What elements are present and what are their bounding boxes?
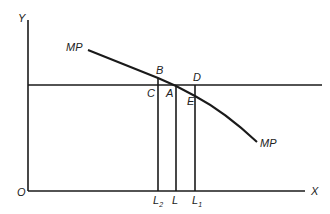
mp-label-right: MP bbox=[260, 137, 277, 149]
point-a-label: A bbox=[165, 87, 173, 99]
tick-l: L bbox=[172, 194, 178, 206]
point-e-label: E bbox=[187, 95, 195, 107]
tick-l1: L1 bbox=[192, 194, 202, 208]
mp-label-left: MP bbox=[66, 41, 83, 53]
marginal-product-diagram: Y X O MP MP B C A D E L2 L L1 bbox=[0, 0, 330, 214]
x-axis-label: X bbox=[310, 185, 319, 197]
tick-l2: L2 bbox=[153, 194, 163, 208]
y-axis-label: Y bbox=[18, 12, 26, 24]
point-b-label: B bbox=[156, 64, 163, 76]
origin-label: O bbox=[17, 186, 26, 198]
point-c-label: C bbox=[147, 87, 155, 99]
point-d-label: D bbox=[193, 71, 201, 83]
